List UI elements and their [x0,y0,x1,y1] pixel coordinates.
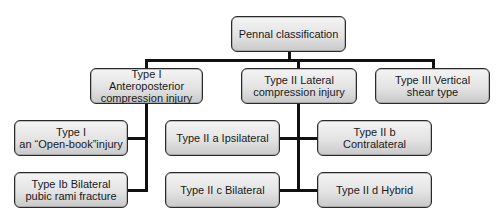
connector-level1-bus [145,59,435,62]
node-label: Type I an “Open-book”injury [19,126,122,150]
node-label: Pennal classification [239,28,339,40]
node-label: Type II c Bilateral [180,184,264,196]
connector-type1-branch-a [127,137,147,140]
connector-type2-branch-left-a [279,137,319,140]
connector-type2-trunk [297,103,300,192]
node-type-2c-bilateral: Type II c Bilateral [165,172,280,208]
node-type-1b-bilateral-pubic-rami: Type Ib Bilateral pubic rami fracture [14,172,128,208]
node-label: Type II b Contralateral [343,126,406,150]
node-label: Type I Anteroposterior compression injur… [101,68,193,104]
node-type-2d-hybrid: Type II d Hybrid [317,172,432,208]
node-type-2-lateral: Type II Lateral compression injury [241,68,357,104]
connector-type1-trunk [145,103,148,192]
node-type-2a-ipsilateral: Type II a Ipsilateral [165,120,280,156]
node-type-1-anteroposterior: Type I Anteroposterior compression injur… [90,68,203,104]
node-label: Type Ib Bilateral pubic rami fracture [25,178,116,202]
node-pennal-classification: Pennal classification [231,16,346,52]
node-type-2b-contralateral: Type II b Contralateral [317,120,432,156]
connector-type2-branch-left-c [279,189,319,192]
connector-type1-branch-b [127,189,147,192]
node-label: Type III Vertical shear type [395,74,470,98]
node-label: Type II a Ipsilateral [176,132,268,144]
node-label: Type II d Hybrid [336,184,413,196]
node-type-3-vertical-shear: Type III Vertical shear type [375,68,490,104]
node-label: Type II Lateral compression injury [253,74,345,98]
node-type-1-open-book: Type I an “Open-book”injury [14,120,128,156]
